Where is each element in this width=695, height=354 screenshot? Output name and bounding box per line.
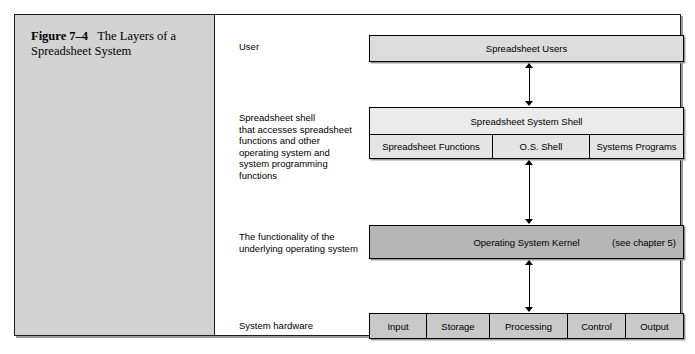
layer-box-shell: Spreadsheet System Shell Spreadsheet Fun…: [369, 107, 684, 159]
connector-kernel-hardware-arrow: [525, 260, 534, 312]
shell-subbox-systems-programs: Systems Programs: [590, 135, 683, 158]
arrowhead-down-icon: [525, 101, 533, 106]
figure-number: Figure 7–4: [31, 29, 88, 43]
hardware-cell-processing: Processing: [490, 314, 568, 338]
hardware-cell-input: Input: [370, 314, 427, 338]
layer-box-kernel-note: (see chapter 5): [612, 237, 676, 248]
layer-box-user-label: Spreadsheet Users: [486, 43, 567, 54]
connector-shell-kernel-arrow: [525, 160, 534, 224]
layer-box-kernel: Operating System Kernel (see chapter 5): [369, 225, 684, 259]
shell-subbox-spreadsheet-functions: Spreadsheet Functions: [370, 135, 493, 158]
arrow-shaft: [529, 67, 530, 102]
hardware-cell-control: Control: [568, 314, 626, 338]
figure-frame: Figure 7–4 The Layers of a Spreadsheet S…: [14, 14, 681, 336]
hardware-cell-output: Output: [626, 314, 683, 338]
layer-box-user: Spreadsheet Users: [369, 35, 684, 62]
layer-label-user: User: [239, 41, 259, 53]
hardware-cell-storage: Storage: [427, 314, 490, 338]
connector-user-shell-arrow: [525, 63, 534, 106]
layer-label-hardware: System hardware: [239, 320, 313, 332]
layered-architecture-diagram: User Spreadsheet Users Spreadsheet shell…: [216, 15, 680, 335]
layer-shell-subbox-row: Spreadsheet Functions O.S. Shell Systems…: [369, 135, 684, 159]
arrowhead-down-icon: [525, 219, 533, 224]
layer-box-shell-label: Spreadsheet System Shell: [471, 116, 583, 127]
figure-caption-panel: Figure 7–4 The Layers of a Spreadsheet S…: [15, 15, 215, 335]
arrowhead-down-icon: [525, 307, 533, 312]
arrow-shaft: [529, 164, 530, 220]
layer-box-shell-header: Spreadsheet System Shell: [369, 107, 684, 135]
layer-label-shell: Spreadsheet shell that accesses spreadsh…: [239, 112, 352, 181]
shell-subbox-os-shell: O.S. Shell: [493, 135, 590, 158]
figure-caption: Figure 7–4 The Layers of a Spreadsheet S…: [31, 29, 203, 59]
layer-label-kernel: The functionality of the underlying oper…: [239, 231, 358, 254]
arrow-shaft: [529, 264, 530, 308]
layer-box-hardware: Input Storage Processing Control Output: [369, 313, 684, 339]
